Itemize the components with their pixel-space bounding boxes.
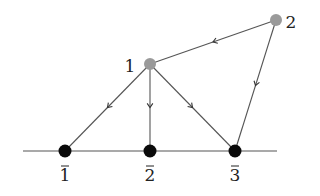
nodes: [59, 14, 283, 158]
node-label-2bar: 2: [145, 165, 156, 185]
graph-diagram: 12123: [0, 0, 320, 196]
node-1: [144, 58, 156, 70]
edges: [65, 20, 276, 151]
node-label-1: 1: [125, 56, 136, 76]
node-1bar: [59, 145, 72, 158]
node-labels: 12123: [60, 12, 297, 185]
node-3bar: [229, 145, 242, 158]
node-2: [270, 14, 282, 26]
node-label-1bar: 1: [60, 165, 71, 185]
node-label-3bar: 3: [230, 165, 241, 185]
node-label-2: 2: [286, 12, 297, 32]
node-2bar: [144, 145, 157, 158]
